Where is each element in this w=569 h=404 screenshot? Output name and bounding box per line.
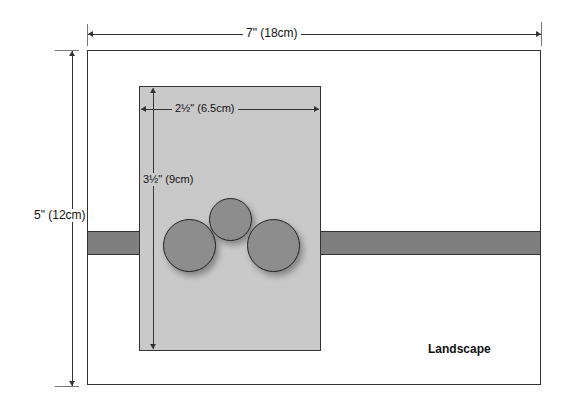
band-left-segment xyxy=(88,231,140,255)
arrow-up-icon xyxy=(69,51,75,56)
circle-middle xyxy=(209,198,252,241)
circle-right xyxy=(247,219,300,272)
arrow-right-icon xyxy=(536,31,541,37)
arrow-left-icon xyxy=(88,31,93,37)
circle-left xyxy=(163,219,216,272)
outer-height-bottom-extension xyxy=(55,386,79,387)
inner-arrow-right-icon xyxy=(314,106,319,112)
outer-width-label: 7" (18cm) xyxy=(243,27,301,40)
band-right-segment xyxy=(320,231,540,255)
inner-arrow-up-icon xyxy=(150,88,156,93)
outer-height-label: 5" (12cm) xyxy=(31,209,89,222)
inner-arrow-down-icon xyxy=(150,344,156,349)
arrow-down-icon xyxy=(69,381,75,386)
inner-height-label: 3½" (9cm) xyxy=(140,173,196,186)
inner-height-dimension-line xyxy=(153,88,154,349)
inner-width-label: 2½" (6.5cm) xyxy=(172,102,238,115)
outer-width-dimension-line xyxy=(88,34,541,35)
outer-height-top-extension xyxy=(55,50,79,51)
outer-width-right-extension xyxy=(541,22,542,46)
inner-arrow-left-icon xyxy=(141,106,146,112)
landscape-caption: Landscape xyxy=(428,342,491,356)
